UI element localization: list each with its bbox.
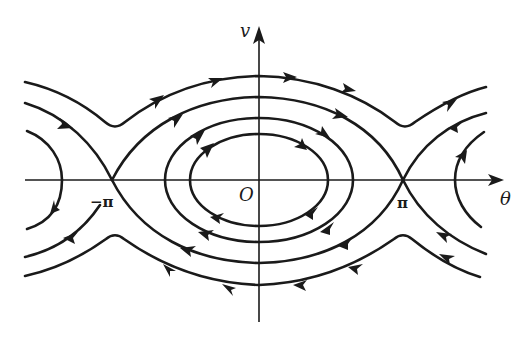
v-axis-label: v xyxy=(240,22,250,40)
separatrix-upper xyxy=(112,97,403,180)
axes xyxy=(25,26,504,322)
orbit-2-arrow-bottom-left-icon xyxy=(198,230,214,241)
running-top-arrow-1-icon xyxy=(149,95,164,109)
sep-left-lower-arrow-icon xyxy=(63,232,78,244)
sep-upper-arrow-1-icon xyxy=(168,114,183,128)
running-bottom-arrow-2-icon xyxy=(348,264,363,275)
pos-pi-label: π xyxy=(397,196,408,211)
separatrix-lower xyxy=(112,180,403,263)
phase-portrait xyxy=(0,0,527,346)
origin-label: O xyxy=(239,186,254,204)
running-bottom-arrow-4-icon xyxy=(222,284,236,296)
running-top-arrow-4-icon xyxy=(340,83,356,93)
right-side-orbit-arrow-icon xyxy=(455,150,467,164)
theta-axis-label: θ xyxy=(500,190,511,208)
orbit-1-arrow-top-left-icon xyxy=(200,143,214,158)
neg-pi-label: −π xyxy=(90,195,114,210)
separatrix-left-upper xyxy=(25,103,112,180)
